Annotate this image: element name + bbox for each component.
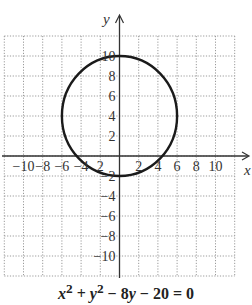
y-tick-label: −6	[101, 209, 116, 224]
x-tick-label: −6	[54, 159, 69, 174]
y-tick-label: −4	[101, 189, 116, 204]
x-tick-label: 10	[209, 159, 223, 174]
y-axis-label: y	[101, 11, 110, 27]
y-tick-label: 2	[109, 129, 116, 144]
y-tick-label: −10	[94, 249, 116, 264]
x-tick-label: −4	[74, 159, 89, 174]
graph-plot: −10−8−6−42246810108642−2−4−6−8−10yx	[0, 0, 252, 305]
axes	[2, 15, 249, 278]
y-tick-label: −8	[101, 229, 116, 244]
x-tick-label: 4	[154, 159, 161, 174]
x-tick-label: 6	[174, 159, 181, 174]
x-tick-label: −10	[13, 159, 35, 174]
y-tick-label: 10	[102, 49, 116, 64]
x-axis-label: x	[243, 162, 251, 178]
x-tick-label: 8	[193, 159, 200, 174]
y-tick-label: 6	[109, 89, 116, 104]
equation-caption: x2 + y2 − 8y − 20 = 0	[0, 281, 252, 303]
y-tick-label: −2	[101, 169, 116, 184]
y-tick-label: 4	[109, 109, 116, 124]
x-tick-label: −8	[35, 159, 50, 174]
x-tick-label: 2	[135, 159, 142, 174]
y-tick-label: 8	[109, 69, 116, 84]
